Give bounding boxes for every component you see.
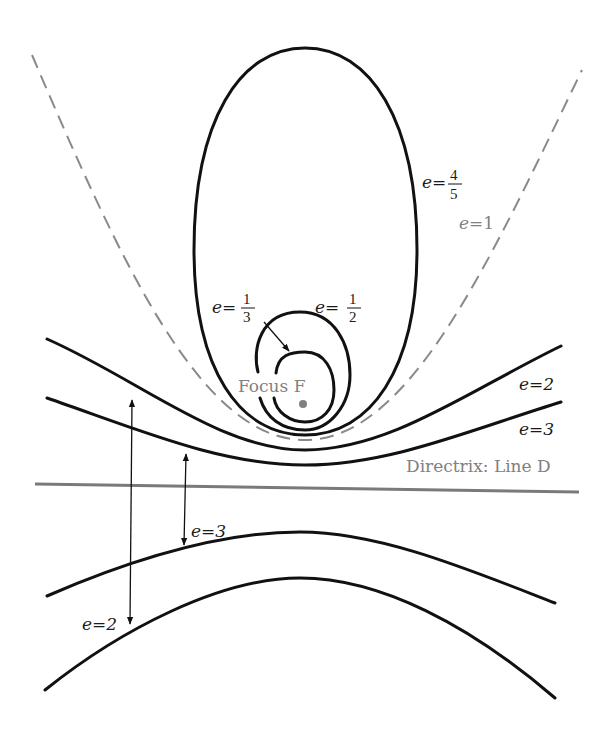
svg-text:e=1: e=1 xyxy=(459,213,494,233)
hyperbola-e3-lower xyxy=(47,532,555,603)
label-e1-2: e= 1 2 xyxy=(315,291,361,325)
svg-text:2: 2 xyxy=(349,309,357,325)
arrow-e2 xyxy=(130,400,132,624)
focus-point xyxy=(299,400,307,408)
parabola-e1 xyxy=(32,55,582,440)
svg-text:4: 4 xyxy=(450,167,458,183)
svg-text:e=: e= xyxy=(212,297,236,317)
label-e3-lower: e=3 xyxy=(191,521,226,541)
svg-text:5: 5 xyxy=(450,186,458,202)
label-e1-3: e= 1 3 xyxy=(212,291,255,325)
conic-diagram: e= 4 5 e=1 e= 1 3 e= 1 2 Focus F e=2 e=3… xyxy=(0,0,607,739)
focus-label: Focus F xyxy=(238,376,306,396)
svg-text:e=: e= xyxy=(422,172,446,192)
label-e4-5: e= 4 5 xyxy=(422,167,462,202)
arrow-e3 xyxy=(184,454,186,545)
label-e2-lower: e=2 xyxy=(82,614,117,634)
ellipse-e4-5 xyxy=(194,48,417,435)
label-e2-upper: e=2 xyxy=(519,374,554,394)
label-e3-upper: e=3 xyxy=(519,419,554,439)
svg-text:1: 1 xyxy=(349,291,357,307)
hyperbola-e3-upper xyxy=(47,398,561,465)
svg-text:1: 1 xyxy=(243,291,251,307)
svg-text:e=: e= xyxy=(315,297,339,317)
label-e1: e=1 xyxy=(459,213,494,233)
pointer-e1-3 xyxy=(264,322,289,351)
directrix-line xyxy=(35,484,579,492)
directrix-label: Directrix: Line D xyxy=(406,456,551,476)
svg-text:3: 3 xyxy=(243,309,251,325)
hyperbola-e2-lower xyxy=(45,578,555,698)
